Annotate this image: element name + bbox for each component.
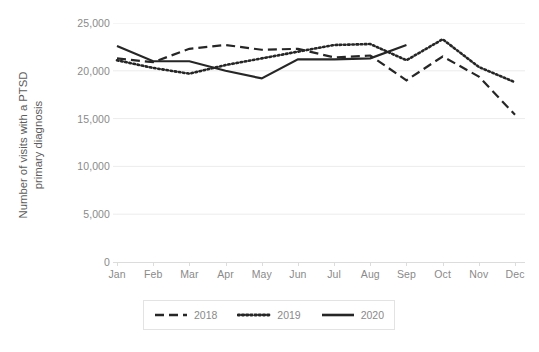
x-tick-mark — [298, 262, 299, 266]
chart-legend: 201820192020 — [143, 300, 395, 330]
x-tick-mark — [370, 262, 371, 266]
x-tick-mark — [479, 262, 480, 266]
x-tick-mark — [117, 262, 118, 266]
x-tick-mark — [189, 262, 190, 266]
plot-area — [113, 23, 525, 262]
x-tick-label: Nov — [469, 268, 488, 280]
x-tick-label: Dec — [506, 268, 525, 280]
x-tick-mark — [334, 262, 335, 266]
legend-label-2019: 2019 — [277, 309, 300, 321]
legend-swatch-2020 — [321, 310, 355, 320]
x-axis-line — [113, 262, 525, 263]
chart-figure: Number of visits with a PTSD primary dia… — [0, 0, 539, 352]
legend-label-2020: 2020 — [361, 309, 384, 321]
x-tick-label: Jan — [108, 268, 125, 280]
legend-label-2018: 2018 — [194, 309, 217, 321]
y-tick-label: 5,000 — [54, 208, 110, 220]
legend-item-2018[interactable]: 2018 — [154, 309, 217, 321]
legend-item-2019[interactable]: 2019 — [237, 309, 300, 321]
y-tick-label: 10,000 — [54, 160, 110, 172]
x-tick-mark — [226, 262, 227, 266]
x-tick-label: Aug — [361, 268, 380, 280]
legend-item-2020[interactable]: 2020 — [321, 309, 384, 321]
series-line-2018 — [117, 45, 515, 115]
y-tick-label: 25,000 — [54, 17, 110, 29]
x-tick-label: Feb — [144, 268, 162, 280]
x-tick-mark — [153, 262, 154, 266]
x-tick-mark — [443, 262, 444, 266]
x-tick-label: Sep — [397, 268, 416, 280]
x-tick-mark — [515, 262, 516, 266]
y-tick-label: 0 — [54, 256, 110, 268]
legend-swatch-2019 — [237, 310, 271, 320]
x-tick-label: Apr — [217, 268, 234, 280]
x-tick-mark — [262, 262, 263, 266]
x-tick-mark — [406, 262, 407, 266]
y-tick-label: 20,000 — [54, 65, 110, 77]
chart-canvas — [113, 23, 525, 262]
x-tick-label: Jun — [289, 268, 306, 280]
x-tick-label: May — [252, 268, 272, 280]
y-axis-title-line2: primary diagnosis — [31, 72, 46, 219]
x-tick-label: Mar — [180, 268, 198, 280]
x-tick-label: Jul — [327, 268, 341, 280]
y-axis-tick-labels: 05,00010,00015,00020,00025,000 — [52, 0, 110, 290]
y-axis-title-line1: Number of visits with a PTSD — [16, 72, 31, 219]
y-axis-title: Number of visits with a PTSD primary dia… — [8, 0, 54, 290]
legend-swatch-2018 — [154, 310, 188, 320]
y-tick-label: 15,000 — [54, 113, 110, 125]
x-tick-label: Oct — [434, 268, 451, 280]
